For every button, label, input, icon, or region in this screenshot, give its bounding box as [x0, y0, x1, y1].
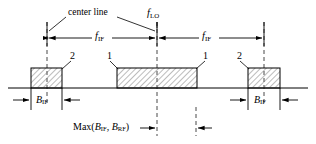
f-if-right-label: fIF [202, 31, 211, 42]
max-second-subscript: RF [118, 125, 126, 132]
max-prefix: Max( [73, 121, 95, 132]
f-if-right-subscript: IF [205, 35, 211, 42]
b-if-right-subscript: IF [260, 98, 266, 105]
f-if-left-subscript: IF [98, 35, 104, 42]
callout-center-left-number: 1 [107, 51, 112, 61]
b-if-left-subscript: IF [42, 98, 48, 105]
f-lo-subscript: LO [150, 12, 159, 19]
callout-leader-left-2 [62, 61, 71, 69]
f-lo-label: fLO [147, 8, 159, 19]
callout-leader-right-2 [240, 61, 249, 69]
callout-leader-center-left-1 [110, 61, 118, 69]
diagram-vector-layer [0, 0, 316, 144]
center-line-label: center line [68, 8, 108, 18]
center-line-leader-left [49, 17, 66, 31]
max-bandwidth-right-extension [196, 107, 212, 136]
right-sideband-block [248, 68, 280, 88]
b-if-left-label: BIF [36, 95, 48, 106]
f-if-left-label: fIF [95, 31, 104, 42]
center-passband-block [117, 68, 197, 88]
figure-canvas: center line fLO fIF fIF 2 1 1 2 BIF BIF … [0, 0, 316, 144]
b-if-right-label: BIF [254, 95, 266, 106]
max-suffix: ) [126, 121, 129, 132]
callout-right-number: 2 [237, 51, 242, 61]
callout-leader-center-right-1 [196, 61, 205, 69]
callout-left-number: 2 [70, 51, 75, 61]
left-sideband-block [31, 68, 62, 88]
callout-center-right-number: 1 [203, 51, 208, 61]
f-if-right-dimension [159, 22, 264, 46]
max-bandwidth-label: Max(BIF, BRF) [73, 122, 129, 133]
